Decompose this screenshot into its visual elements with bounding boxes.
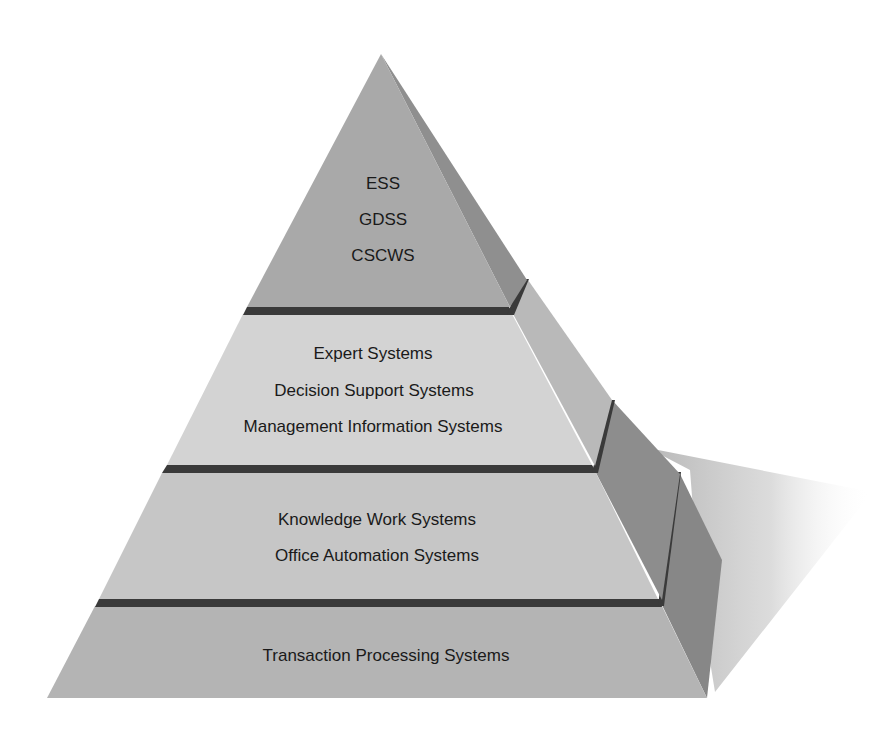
tier-middle — [167, 279, 612, 466]
label-ess: ESS — [366, 174, 400, 193]
label-expert-systems: Expert Systems — [313, 344, 432, 363]
label-transaction-processing-systems: Transaction Processing Systems — [263, 646, 510, 665]
label-cscws: CSCWS — [351, 246, 414, 265]
middle-divider — [243, 307, 514, 315]
label-knowledge-work-systems: Knowledge Work Systems — [278, 510, 476, 529]
labels-base: Transaction Processing Systems — [263, 646, 510, 665]
lower-divider — [162, 465, 597, 473]
lower-front-face — [99, 473, 658, 599]
label-gdss: GDSS — [359, 210, 407, 229]
label-office-automation-systems: Office Automation Systems — [275, 546, 479, 565]
pyramid-diagram: ESS GDSS CSCWS Expert Systems Decision S… — [0, 0, 887, 750]
base-divider — [95, 599, 662, 607]
label-management-information-systems: Management Information Systems — [244, 417, 503, 436]
label-decision-support-systems: Decision Support Systems — [274, 381, 473, 400]
